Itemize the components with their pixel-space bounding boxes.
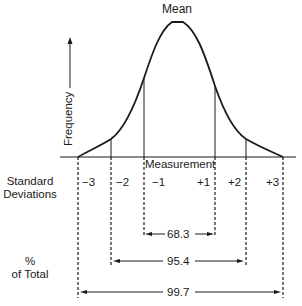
measurement-label: Measurement <box>145 158 215 171</box>
bell-curve <box>78 22 283 157</box>
arrowhead-up-icon <box>68 37 73 44</box>
sd-tick-minus-2: −2 <box>116 176 129 189</box>
sd-tick-plus-3: +3 <box>266 176 279 189</box>
mean-label: Mean <box>162 3 192 16</box>
frequency-label: Frequency <box>62 92 75 146</box>
standard-deviations-line-2: Deviations <box>3 188 57 201</box>
standard-deviations-label: Standard Deviations <box>3 175 57 201</box>
arrowhead-left-icon <box>80 290 87 294</box>
percent-of-total-label: % of Total <box>3 255 57 281</box>
range-label-99: 99.7 <box>167 286 189 299</box>
sd-tick-minus-1: −1 <box>152 176 165 189</box>
sd-tick-plus-1: +1 <box>197 176 210 189</box>
arrowhead-left-icon <box>113 259 120 263</box>
arrowhead-right-icon <box>237 259 244 263</box>
sd-tick-minus-3: −3 <box>82 176 95 189</box>
sd-tick-plus-2: +2 <box>228 176 241 189</box>
percent-of-total-line-1: % <box>3 255 57 268</box>
range-label-95: 95.4 <box>167 255 189 268</box>
standard-deviations-line-1: Standard <box>3 175 57 188</box>
percent-of-total-line-2: of Total <box>3 268 57 281</box>
range-label-68: 68.3 <box>167 228 189 241</box>
arrowhead-right-icon <box>274 290 281 294</box>
arrowhead-right-icon <box>207 232 214 236</box>
arrowhead-left-icon <box>145 232 152 236</box>
